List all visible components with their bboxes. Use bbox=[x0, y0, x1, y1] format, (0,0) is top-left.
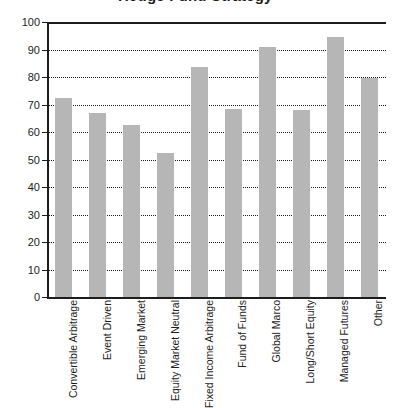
y-axis-tick-marks bbox=[0, 22, 47, 297]
bar[interactable] bbox=[89, 113, 106, 297]
x-tick-label: Event Driven bbox=[102, 300, 113, 360]
bar[interactable] bbox=[293, 110, 310, 297]
bar[interactable] bbox=[327, 37, 344, 297]
x-tick-label: Fund of Funds bbox=[237, 300, 248, 368]
bar[interactable] bbox=[123, 125, 140, 297]
gridline-0 bbox=[47, 297, 386, 299]
x-tick-label: Long/Short Equity bbox=[305, 300, 316, 383]
bar[interactable] bbox=[55, 98, 72, 297]
bar[interactable] bbox=[259, 47, 276, 297]
bar[interactable] bbox=[191, 67, 208, 297]
bar[interactable] bbox=[361, 78, 378, 297]
x-axis-tick-labels: Convertible ArbitrageEvent DrivenEmergin… bbox=[47, 300, 386, 396]
gridline-100 bbox=[47, 22, 386, 24]
bar[interactable] bbox=[225, 109, 242, 297]
x-tick-label: Equity Market Neutral bbox=[170, 300, 181, 401]
x-tick-label: Other bbox=[373, 300, 384, 326]
x-tick-label: Managed Futures bbox=[339, 300, 350, 382]
chart-title: Hedge Fund Strategy bbox=[118, 0, 273, 5]
bar[interactable] bbox=[157, 153, 174, 297]
x-tick-label: Fixed Income Arbitrage bbox=[204, 300, 215, 408]
plot-area bbox=[47, 22, 386, 297]
x-tick-label: Emerging Market bbox=[136, 300, 147, 380]
x-tick-label: Global Marco bbox=[271, 300, 282, 362]
x-tick-label: Convertible Arbitrage bbox=[68, 300, 79, 398]
